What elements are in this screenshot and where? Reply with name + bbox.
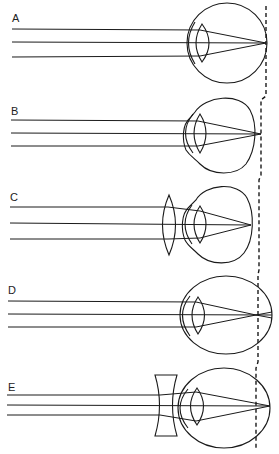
panel-label-c: C	[10, 191, 18, 203]
ray-middle-c	[10, 223, 251, 225]
convex-corrective-lens	[163, 195, 176, 255]
panel-label-b: B	[11, 105, 18, 117]
panel-label-a: A	[12, 12, 20, 24]
ray-middle-a	[12, 42, 266, 43]
panel-e: E	[7, 368, 270, 448]
ray-middle-e	[7, 405, 270, 406]
ray-top-a	[12, 29, 266, 43]
panel-a: A	[12, 3, 267, 83]
ray-bottom-c	[10, 225, 251, 239]
eye-refraction-diagram: A B C	[0, 0, 279, 454]
ray-bottom-a	[12, 43, 266, 57]
panel-label-d: D	[8, 284, 16, 296]
ray-top-e	[7, 392, 270, 406]
ray-bottom-e	[7, 406, 270, 421]
panel-b: B	[11, 98, 261, 173]
ray-top-c	[10, 207, 251, 225]
ray-top-d	[8, 301, 272, 318]
ray-middle-b	[11, 133, 261, 134]
eyeball-e	[178, 368, 270, 448]
ray-bottom-b	[11, 134, 261, 146]
panel-label-e: E	[8, 381, 15, 393]
ray-top-b	[11, 120, 261, 134]
ray-middle-d	[8, 314, 272, 315]
panel-d: D	[8, 276, 272, 354]
panel-c: C	[10, 187, 252, 263]
